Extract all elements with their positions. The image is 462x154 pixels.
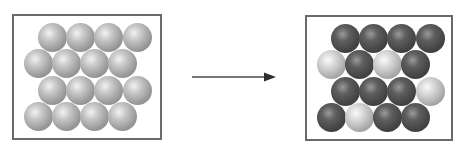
reaction-arrow [0,0,462,154]
arrow-head-icon [264,73,276,82]
